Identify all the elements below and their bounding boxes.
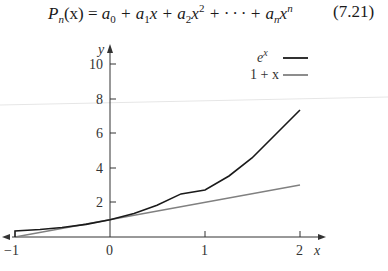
x-axis-label: x	[313, 243, 321, 258]
y-axis-arrow-icon	[107, 44, 113, 53]
y-tick-label: 4	[96, 161, 103, 176]
x-ticks	[205, 231, 300, 237]
y-ticks	[110, 64, 116, 202]
x-tick-label: 1	[201, 243, 208, 258]
x-axis-right-arrow-icon	[318, 234, 326, 240]
y-tick-label: 8	[96, 92, 103, 107]
y-tick-label: 2	[96, 195, 103, 210]
series-exp	[15, 110, 300, 237]
legend-linear-label: 1 + x	[250, 67, 279, 82]
x-tick-label: −1	[4, 243, 19, 258]
legend-ex-label: ex	[257, 47, 268, 65]
x-tick-label: 2	[296, 243, 303, 258]
y-tick-label: 10	[89, 57, 103, 72]
chart: 2 4 6 8 10 y −1 0 1 2 x ex 1 + x	[0, 0, 388, 271]
x-axis-left-arrow-icon	[2, 234, 10, 240]
series-1-plus-x	[15, 185, 300, 237]
y-axis-label: y	[96, 42, 105, 57]
y-tick-label: 6	[96, 126, 103, 141]
x-tick-label: 0	[106, 243, 113, 258]
artifact-line	[0, 97, 388, 105]
